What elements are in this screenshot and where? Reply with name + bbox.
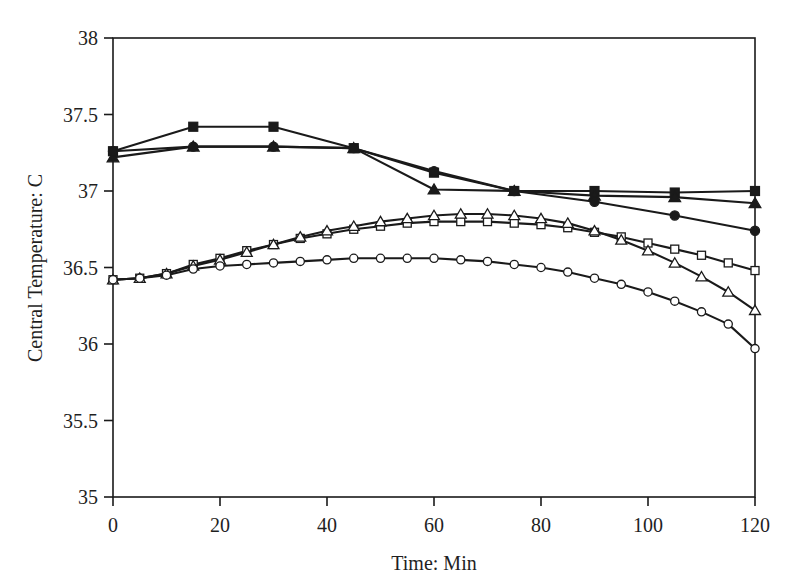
- data-point-marker: [243, 260, 251, 268]
- data-point-marker: [349, 144, 358, 153]
- data-point-marker: [350, 254, 358, 262]
- x-tick-label: 120: [740, 514, 770, 536]
- data-point-marker: [483, 257, 491, 265]
- data-point-marker: [537, 263, 545, 271]
- data-point-marker: [724, 320, 732, 328]
- data-point-marker: [108, 147, 117, 156]
- y-tick-label: 36.5: [63, 257, 98, 279]
- data-point-marker: [671, 245, 679, 253]
- data-point-marker: [162, 271, 170, 279]
- x-tick-label: 80: [531, 514, 551, 536]
- data-point-marker: [644, 288, 652, 296]
- data-point-marker: [323, 256, 331, 264]
- y-tick-label: 37.5: [63, 104, 98, 126]
- data-point-marker: [510, 186, 519, 195]
- data-point-marker: [724, 259, 732, 267]
- data-point-marker: [296, 257, 304, 265]
- x-axis-title: Time: Min: [391, 552, 476, 574]
- data-point-marker: [510, 260, 518, 268]
- data-point-marker: [269, 259, 277, 267]
- data-point-marker: [189, 122, 198, 131]
- x-tick-label: 0: [108, 514, 118, 536]
- temperature-line-chart: 3535.53636.53737.538 020406080100120 Cen…: [0, 0, 807, 582]
- y-tick-label: 38: [78, 27, 98, 49]
- data-point-marker: [484, 218, 492, 226]
- data-point-marker: [216, 262, 224, 270]
- data-point-marker: [751, 267, 759, 275]
- data-point-marker: [189, 265, 197, 273]
- data-point-marker: [590, 197, 599, 206]
- data-point-marker: [136, 274, 144, 282]
- data-point-marker: [510, 219, 518, 227]
- data-point-marker: [670, 211, 679, 220]
- data-point-marker: [457, 218, 465, 226]
- y-axis-title: Central Temperature: C: [24, 174, 47, 362]
- x-tick-label: 40: [317, 514, 337, 536]
- data-point-marker: [564, 268, 572, 276]
- data-point-marker: [750, 226, 759, 235]
- x-tick-label: 100: [633, 514, 663, 536]
- y-tick-label: 35.5: [63, 410, 98, 432]
- chart-background: [0, 0, 807, 582]
- data-point-marker: [430, 254, 438, 262]
- data-point-marker: [617, 280, 625, 288]
- data-point-marker: [671, 297, 679, 305]
- data-point-marker: [429, 167, 438, 176]
- chart-page: 3535.53636.53737.538 020406080100120 Cen…: [0, 0, 807, 582]
- data-point-marker: [698, 251, 706, 259]
- y-tick-label: 36: [78, 333, 98, 355]
- data-point-marker: [269, 122, 278, 131]
- data-point-marker: [697, 308, 705, 316]
- data-point-marker: [376, 254, 384, 262]
- y-tick-label: 37: [78, 180, 98, 202]
- data-point-marker: [109, 276, 117, 284]
- data-point-marker: [590, 274, 598, 282]
- x-tick-label: 20: [210, 514, 230, 536]
- data-point-marker: [269, 142, 278, 151]
- data-point-marker: [457, 256, 465, 264]
- data-point-marker: [751, 344, 759, 352]
- x-tick-label: 60: [424, 514, 444, 536]
- y-tick-label: 35: [78, 486, 98, 508]
- data-point-marker: [403, 254, 411, 262]
- data-point-marker: [189, 142, 198, 151]
- data-point-marker: [751, 187, 760, 196]
